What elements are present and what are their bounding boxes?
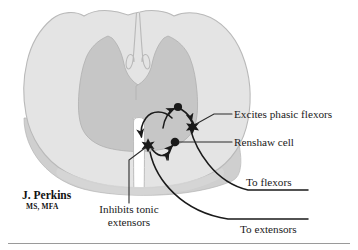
signature-credentials: MS, MFA xyxy=(26,202,59,211)
label-inhibits-tonic-line2: extensors xyxy=(108,216,150,228)
figure-panel: Excites phasic flexors Renshaw cell To f… xyxy=(0,0,358,250)
label-renshaw-cell: Renshaw cell xyxy=(234,136,294,148)
central-canal xyxy=(130,100,146,118)
spinal-cord-section xyxy=(24,11,250,196)
label-to-flexors: To flexors xyxy=(246,176,292,188)
signature-name: J. Perkins xyxy=(22,189,72,201)
label-to-extensors: To extensors xyxy=(240,223,297,235)
interneuron-upper-soma xyxy=(174,103,182,111)
renshaw-cell-soma xyxy=(171,138,180,147)
label-excites-phasic-flexors: Excites phasic flexors xyxy=(234,108,332,120)
spinal-cord-diagram: Excites phasic flexors Renshaw cell To f… xyxy=(0,0,358,250)
label-inhibits-tonic-line1: Inhibits tonic xyxy=(99,203,158,215)
